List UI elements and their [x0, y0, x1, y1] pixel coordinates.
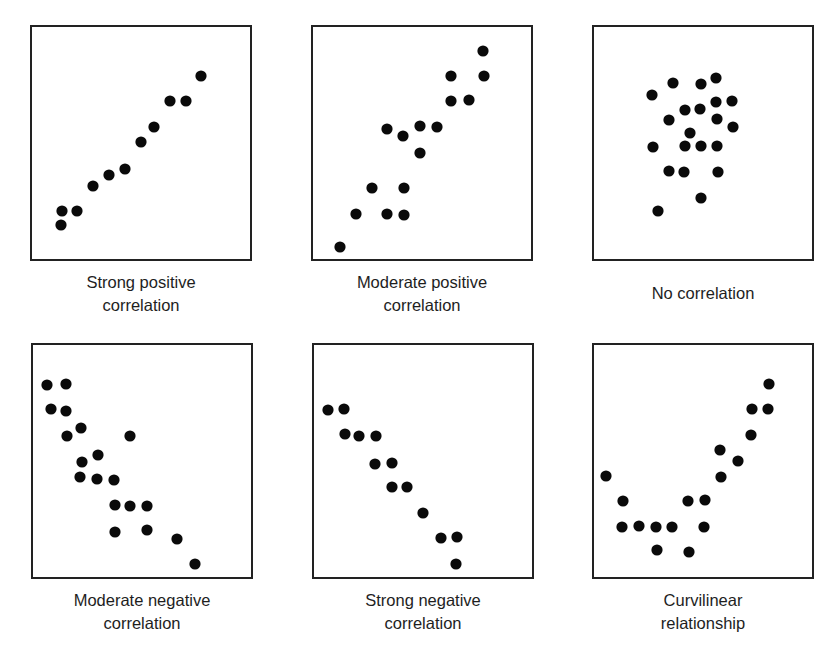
- data-point: [678, 166, 689, 177]
- panel-caption: Strong positive correlation: [0, 271, 282, 316]
- data-point: [711, 140, 722, 151]
- data-point: [135, 136, 146, 147]
- data-point: [322, 404, 333, 415]
- panel-caption: Curvilinear relationship: [562, 589, 837, 634]
- data-point: [679, 104, 690, 115]
- data-point: [370, 430, 381, 441]
- data-point: [679, 140, 690, 151]
- data-point: [353, 430, 364, 441]
- data-point: [124, 430, 135, 441]
- data-point: [171, 533, 182, 544]
- data-point: [435, 532, 446, 543]
- data-point: [75, 422, 86, 433]
- caption-line-2: correlation: [1, 612, 283, 635]
- data-point: [164, 95, 175, 106]
- data-point: [698, 521, 709, 532]
- data-point: [180, 95, 191, 106]
- data-point: [732, 455, 743, 466]
- caption-line-1: No correlation: [562, 282, 837, 305]
- data-point: [463, 94, 474, 105]
- caption-line-1: Curvilinear: [562, 589, 837, 612]
- data-point: [91, 473, 102, 484]
- data-point: [45, 403, 56, 414]
- data-point: [41, 379, 52, 390]
- data-point: [350, 208, 361, 219]
- data-point: [616, 521, 627, 532]
- data-point: [663, 165, 674, 176]
- data-point: [711, 113, 722, 124]
- data-point: [103, 169, 114, 180]
- data-point: [684, 127, 695, 138]
- data-point: [417, 507, 428, 518]
- scatter-plot-curvilinear: [592, 343, 814, 579]
- scatter-points: [31, 343, 253, 579]
- data-point: [124, 500, 135, 511]
- data-point: [414, 147, 425, 158]
- data-point: [71, 205, 82, 216]
- data-point: [334, 241, 345, 252]
- data-point: [647, 141, 658, 152]
- data-point: [55, 219, 66, 230]
- data-point: [477, 45, 488, 56]
- data-point: [694, 103, 705, 114]
- data-point: [119, 163, 130, 174]
- data-point: [92, 449, 103, 460]
- caption-line-2: correlation: [281, 294, 563, 317]
- data-point: [478, 70, 489, 81]
- data-point: [451, 531, 462, 542]
- scatter-points: [592, 343, 814, 579]
- data-point: [141, 500, 152, 511]
- data-point: [710, 96, 721, 107]
- data-point: [366, 182, 377, 193]
- data-point: [651, 544, 662, 555]
- caption-line-2: correlation: [0, 294, 282, 317]
- caption-line-1: Strong positive: [0, 271, 282, 294]
- scatter-plot-moderate-positive: [311, 25, 533, 261]
- data-point: [338, 403, 349, 414]
- scatter-points: [592, 25, 814, 261]
- data-point: [414, 120, 425, 131]
- scatter-plot-moderate-negative: [31, 343, 253, 579]
- data-point: [74, 471, 85, 482]
- data-point: [386, 457, 397, 468]
- data-point: [695, 192, 706, 203]
- data-point: [398, 182, 409, 193]
- data-point: [141, 524, 152, 535]
- scatter-plot-strong-negative: [312, 343, 534, 579]
- data-point: [763, 378, 774, 389]
- scatter-points: [311, 25, 533, 261]
- data-point: [386, 481, 397, 492]
- data-point: [445, 70, 456, 81]
- data-point: [710, 72, 721, 83]
- scatter-plot-strong-positive: [30, 25, 252, 261]
- data-point: [600, 470, 611, 481]
- data-point: [60, 378, 71, 389]
- caption-line-1: Strong negative: [282, 589, 564, 612]
- scatter-plot-no-correlation: [592, 25, 814, 261]
- data-point: [60, 405, 71, 416]
- data-point: [746, 403, 757, 414]
- data-point: [666, 521, 677, 532]
- data-point: [715, 471, 726, 482]
- data-point: [445, 95, 456, 106]
- data-point: [699, 494, 710, 505]
- data-point: [695, 140, 706, 151]
- data-point: [762, 403, 773, 414]
- data-point: [726, 95, 737, 106]
- data-point: [663, 114, 674, 125]
- data-point: [650, 521, 661, 532]
- data-point: [646, 89, 657, 100]
- data-point: [712, 166, 723, 177]
- data-point: [148, 121, 159, 132]
- data-point: [695, 78, 706, 89]
- data-point: [431, 121, 442, 132]
- data-point: [61, 430, 72, 441]
- data-point: [745, 429, 756, 440]
- data-point: [109, 526, 120, 537]
- data-point: [617, 495, 628, 506]
- caption-line-1: Moderate positive: [281, 271, 563, 294]
- panel-caption: Moderate positive correlation: [281, 271, 563, 316]
- data-point: [189, 558, 200, 569]
- data-point: [450, 558, 461, 569]
- data-point: [381, 208, 392, 219]
